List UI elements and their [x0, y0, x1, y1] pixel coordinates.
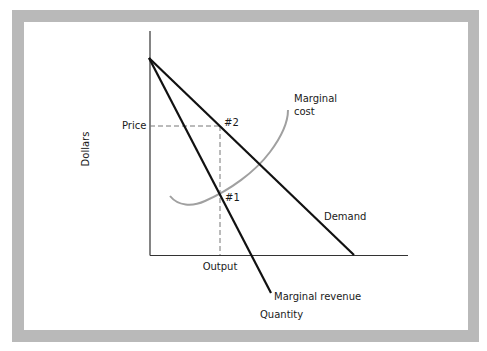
monopoly-pricing-diagram: Dollars Quantity Price Output #2 #1 Marg… — [0, 0, 487, 351]
y-axis-label: Dollars — [80, 132, 91, 167]
point-2-label: #2 — [224, 117, 239, 128]
demand-line — [149, 58, 354, 255]
marginal-revenue-label: Marginal revenue — [274, 291, 361, 302]
marginal-cost-label-line2: cost — [294, 106, 315, 117]
marginal-revenue-line — [149, 58, 271, 293]
price-label: Price — [122, 120, 146, 131]
marginal-cost-label-line1: Marginal — [294, 93, 337, 104]
point-1-label: #1 — [225, 192, 240, 203]
x-axis-label: Quantity — [260, 309, 303, 320]
demand-label: Demand — [324, 211, 366, 222]
output-label: Output — [203, 261, 238, 272]
